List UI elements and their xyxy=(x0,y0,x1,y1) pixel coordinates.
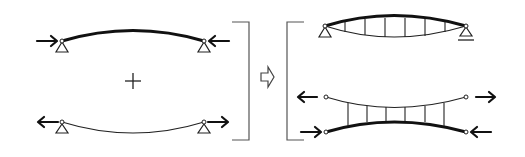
compression-arrow-left-icon xyxy=(37,36,57,46)
compression-arrow-left-icon xyxy=(301,127,321,137)
hinge-icon xyxy=(464,24,468,28)
hinge-icon xyxy=(324,130,328,134)
cable-member xyxy=(62,122,204,133)
lenticular-truss xyxy=(319,16,474,41)
hinge-icon xyxy=(323,24,327,28)
plus-icon xyxy=(125,73,141,89)
hinge-icon xyxy=(202,39,206,43)
tension-arrow-left-icon xyxy=(38,117,58,127)
hinge-icon xyxy=(324,95,328,99)
superposition-diagram xyxy=(0,0,525,157)
hinge-icon xyxy=(464,95,468,99)
tension-arrow-right-icon xyxy=(208,117,228,127)
implies-arrow-icon xyxy=(261,67,274,87)
compression-chord xyxy=(326,122,466,132)
hinge-icon xyxy=(202,120,206,124)
tension-chord xyxy=(326,97,466,108)
diagram-canvas xyxy=(0,0,525,157)
hinge-icon xyxy=(60,39,64,43)
opening-bracket xyxy=(287,22,304,140)
arch-member xyxy=(62,31,204,42)
pin-support-icon xyxy=(198,124,210,133)
closing-bracket xyxy=(232,22,249,140)
hinge-icon xyxy=(464,130,468,134)
arch-beam xyxy=(37,31,229,53)
compression-arrow-right-icon xyxy=(471,127,491,137)
cable-beam xyxy=(38,117,228,133)
compression-arrow-right-icon xyxy=(209,36,229,46)
inverted-truss xyxy=(298,92,495,137)
pin-support-icon xyxy=(56,124,68,133)
hinge-icon xyxy=(60,120,64,124)
tension-arrow-left-icon xyxy=(298,92,317,102)
tension-arrow-right-icon xyxy=(476,92,495,102)
